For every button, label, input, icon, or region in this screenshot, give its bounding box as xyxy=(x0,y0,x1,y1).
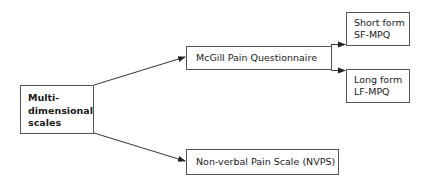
node-label-line: Multi- xyxy=(28,92,93,105)
node-multidimensional-scales: Multi- dimensional scales xyxy=(20,85,94,134)
node-label: Non-verbal Pain Scale (NVPS) xyxy=(196,156,338,168)
node-non-verbal-pain-scale: Non-verbal Pain Scale (NVPS) xyxy=(186,149,339,175)
node-label: McGill Pain Questionnaire xyxy=(196,52,331,64)
node-long-form-lf-mpq: Long form LF-MPQ xyxy=(346,69,410,103)
arrow-multi-to-mcgill xyxy=(94,57,185,85)
node-label-line: SF-MPQ xyxy=(354,29,409,41)
node-label-line: LF-MPQ xyxy=(354,86,409,98)
node-short-form-sf-mpq: Short form SF-MPQ xyxy=(346,12,410,46)
node-label-line: Long form xyxy=(354,74,409,86)
arrow-multi-to-nvps xyxy=(94,133,185,161)
node-label-line: Short form xyxy=(354,17,409,29)
node-mcgill-pain-questionnaire: McGill Pain Questionnaire xyxy=(186,46,332,70)
node-label-line: scales xyxy=(28,117,93,130)
node-label-line: dimensional xyxy=(28,105,93,118)
